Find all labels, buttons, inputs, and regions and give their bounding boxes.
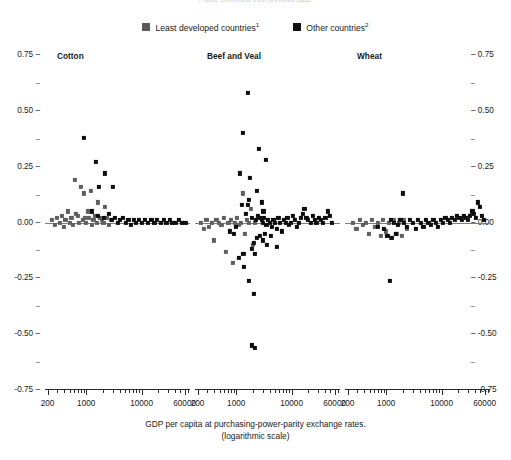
tick-dash-icon: – — [35, 50, 40, 59]
data-point-ldc — [243, 232, 247, 236]
x-axis-minor-tick — [374, 390, 375, 393]
x-axis-major-tick — [86, 390, 87, 395]
data-point-other — [129, 223, 133, 227]
legend-item-other: Other countries2 — [293, 22, 368, 32]
data-point-other — [261, 209, 265, 213]
data-point-other — [330, 220, 334, 224]
x-axis-label-10000: 10000 — [280, 400, 303, 408]
data-point-other — [421, 225, 425, 229]
data-point-other — [395, 223, 399, 227]
x-axis-minor-tick — [429, 390, 430, 393]
y-label-text: -0.25 — [14, 273, 33, 282]
data-point-ldc — [84, 220, 88, 224]
data-point-other — [102, 216, 106, 220]
data-point-ldc — [69, 216, 73, 220]
x-axis-major-tick — [335, 390, 336, 395]
legend-item-ldc: Least developed countries1 — [142, 22, 259, 32]
data-point-ldc — [73, 178, 77, 182]
y-axis-label-0_75: 0.75 – — [17, 51, 40, 59]
data-point-other — [103, 171, 107, 175]
x-axis-label-200: 200 — [191, 400, 205, 408]
panel-wheat: Wheat20010001000060000 — [345, 55, 490, 390]
data-point-ldc — [212, 238, 216, 242]
tick-dash-icon: – — [36, 246, 40, 253]
tick-dash-icon: – — [35, 329, 40, 338]
y-axis-minor-tick: – — [36, 358, 40, 366]
legend-label-other: Other countries2 — [306, 22, 368, 32]
data-point-other — [242, 265, 246, 269]
x-axis-minor-tick — [330, 390, 331, 393]
data-point-other — [248, 176, 252, 180]
x-axis-minor-tick — [436, 390, 437, 393]
x-axis-label-200: 200 — [341, 400, 355, 408]
data-point-other — [401, 191, 405, 195]
x-axis-minor-tick — [403, 390, 404, 393]
x-axis-caption: GDP per capita at purchasing-power-parit… — [0, 419, 511, 442]
data-point-other — [237, 171, 241, 175]
y-axis-label-neg0_25: -0.25 – — [14, 274, 40, 282]
data-point-other — [273, 220, 277, 224]
legend-footnote-other: 2 — [365, 21, 368, 28]
data-point-other — [414, 227, 418, 231]
data-point-other — [270, 225, 274, 229]
x-axis-minor-tick — [370, 390, 371, 393]
data-point-ldc — [199, 220, 203, 224]
data-point-other — [478, 205, 482, 209]
data-point-other — [474, 216, 478, 220]
data-point-other — [275, 245, 279, 249]
x-axis-minor-tick — [439, 390, 440, 393]
data-point-ldc — [76, 214, 80, 218]
tick-dash-icon: – — [35, 106, 40, 115]
legend-label-ldc: Least developed countries1 — [155, 22, 259, 32]
data-point-other — [111, 185, 115, 189]
data-point-other — [97, 185, 101, 189]
data-point-ldc — [247, 220, 251, 224]
data-point-ldc — [354, 227, 358, 231]
legend-text-other: Other countries — [306, 23, 365, 33]
x-axis-minor-tick — [263, 390, 264, 393]
data-point-other — [247, 278, 251, 282]
x-axis-minor-tick — [338, 390, 339, 393]
data-point-ldc — [400, 234, 404, 238]
panel-cotton: Cotton20010001000060000 — [45, 55, 190, 390]
x-axis-minor-tick — [308, 390, 309, 393]
tick-dash-icon: – — [36, 190, 40, 197]
data-point-ldc — [82, 191, 86, 195]
data-point-ldc — [378, 234, 382, 238]
data-point-other — [255, 189, 259, 193]
tick-dash-icon: – — [36, 79, 40, 86]
chart-figure: Figure continued from previous page Leas… — [0, 0, 511, 460]
x-axis-minor-tick — [270, 390, 271, 393]
x-axis-minor-tick — [113, 390, 114, 393]
clipped-header-text: Figure continued from previous page — [0, 0, 511, 3]
data-point-other — [241, 252, 245, 256]
data-point-other — [275, 227, 279, 231]
x-axis-minor-tick — [74, 390, 75, 393]
x-axis-label-1000: 1000 — [77, 400, 95, 408]
data-point-other — [265, 243, 269, 247]
x-axis-minor-tick — [413, 390, 414, 393]
data-point-other — [299, 216, 303, 220]
y-axis-minor-tick: – — [36, 302, 40, 310]
data-point-other — [297, 220, 301, 224]
x-axis-minor-tick — [234, 390, 235, 393]
data-point-other — [314, 220, 318, 224]
data-point-ldc — [90, 223, 94, 227]
x-axis-minor-tick — [180, 390, 181, 393]
data-point-ldc — [202, 227, 206, 231]
x-axis-minor-tick — [420, 390, 421, 393]
x-axis-label-200: 200 — [41, 400, 55, 408]
y-axis-minor-tick: – — [36, 246, 40, 254]
x-axis-minor-tick — [433, 390, 434, 393]
data-point-ldc — [210, 220, 214, 224]
y-axis-minor-tick: – — [36, 190, 40, 198]
x-axis-minor-tick — [207, 390, 208, 393]
x-axis-label-1000: 1000 — [227, 400, 245, 408]
data-point-other — [245, 91, 249, 95]
data-point-other — [95, 214, 99, 218]
x-axis-minor-tick — [120, 390, 121, 393]
x-axis-minor-tick — [275, 390, 276, 393]
data-point-ldc — [89, 189, 93, 193]
data-point-other — [257, 147, 261, 151]
data-point-other — [240, 131, 244, 135]
